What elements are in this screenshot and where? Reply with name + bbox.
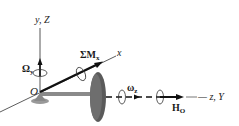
- vertical-axis-label: y, Z: [35, 15, 49, 25]
- omega-z-label: ωz: [127, 83, 137, 95]
- omega-y-label: Ωy: [22, 64, 34, 76]
- rotation-x-icon: [74, 66, 87, 82]
- sum-moment-arrow: [40, 64, 98, 92]
- horizontal-axis-label: — z, Y: [198, 92, 224, 102]
- origin-label: O: [30, 86, 38, 97]
- x-axis-label: x: [117, 48, 121, 58]
- omega-y-arrowhead: [38, 58, 43, 65]
- angular-momentum-label: HO: [172, 103, 185, 115]
- rod: [40, 92, 92, 96]
- sum-moment-label: ΣMx: [80, 50, 99, 62]
